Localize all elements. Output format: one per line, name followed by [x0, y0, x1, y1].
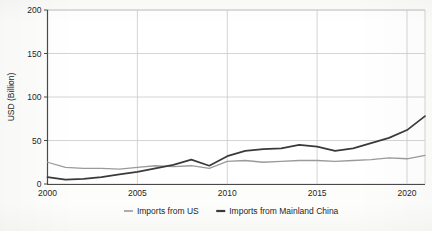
chart-legend: Imports from USImports from Mainland Chi… — [124, 206, 339, 216]
x-tick-label: 2010 — [218, 188, 237, 198]
x-tick-label: 2015 — [308, 188, 327, 198]
y-tick-label: 200 — [27, 5, 41, 15]
legend-label: Imports from Mainland China — [229, 206, 338, 216]
y-tick-label: 50 — [32, 136, 42, 146]
y-axis-title: USD (Billion) — [6, 73, 16, 122]
x-tick-label: 2000 — [38, 188, 57, 198]
legend-label: Imports from US — [137, 206, 199, 216]
x-tick-label: 2005 — [128, 188, 147, 198]
y-tick-labels: 050100150200 — [27, 5, 41, 189]
chart-container: 050100150200 20002005201020152020 USD (B… — [0, 0, 432, 231]
y-tick-label: 150 — [27, 49, 41, 59]
y-tick-label: 100 — [27, 92, 41, 102]
x-tick-label: 2020 — [398, 188, 417, 198]
x-tick-labels: 20002005201020152020 — [38, 188, 417, 198]
line-chart: 050100150200 20002005201020152020 USD (B… — [0, 0, 432, 231]
